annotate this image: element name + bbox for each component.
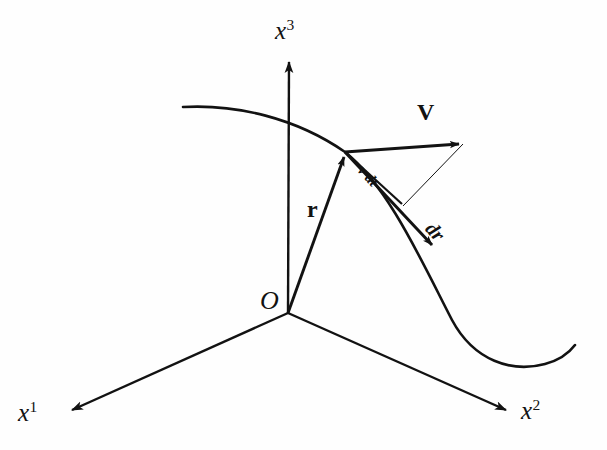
V-vector-arrow — [345, 144, 459, 152]
dr-vector-arrow — [345, 152, 432, 245]
x1-label-superscript: 1 — [30, 398, 38, 415]
x1-label-base: x — [18, 399, 29, 426]
origin-label: O — [260, 288, 279, 314]
x1-axis-label: x1 — [18, 400, 37, 425]
x1-axis — [72, 313, 288, 410]
diagram-canvas — [0, 0, 607, 450]
thin-connector — [403, 144, 463, 206]
r-vector-arrow — [288, 157, 344, 313]
x2-label-superscript: 2 — [533, 396, 541, 413]
V-vector-label: V — [417, 100, 434, 124]
vector-diagram-figure: x3 x1 x2 O r V v·dt dr — [0, 0, 607, 450]
x3-axis — [288, 62, 289, 313]
x3-label-base: x — [275, 17, 286, 44]
x2-axis — [288, 313, 506, 410]
x2-label-base: x — [521, 397, 532, 424]
trajectory-curve — [183, 107, 575, 367]
x2-axis-label: x2 — [521, 398, 540, 423]
x3-label-superscript: 3 — [287, 16, 295, 33]
x3-axis-label: x3 — [275, 18, 294, 43]
r-vector-label: r — [307, 197, 318, 221]
